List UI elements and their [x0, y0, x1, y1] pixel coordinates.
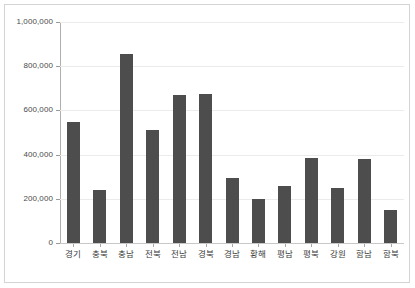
x-tick-label: 경기 — [60, 250, 86, 259]
x-tick-mark — [258, 244, 259, 247]
bar — [358, 159, 371, 243]
x-tick-mark — [391, 244, 392, 247]
bar — [146, 130, 159, 243]
x-tick-mark — [100, 244, 101, 247]
y-tick-label: 400,000 — [23, 151, 53, 159]
x-tick-mark — [311, 244, 312, 247]
x-tick-mark — [73, 244, 74, 247]
x-tick-label: 전북 — [139, 250, 165, 259]
y-axis-tick-labels: 0200,000400,000600,000800,0001,000,000 — [0, 0, 53, 288]
gridline-400000 — [60, 155, 404, 156]
y-tick-label: 1,000,000 — [17, 18, 54, 26]
x-tick-mark — [232, 244, 233, 247]
x-tick-mark — [285, 244, 286, 247]
x-tick-label: 황해 — [245, 250, 271, 259]
y-tick-label: 0 — [48, 239, 53, 247]
gridline-800000 — [60, 66, 404, 67]
bar — [173, 95, 186, 243]
x-tick-mark — [153, 244, 154, 247]
y-tick-label: 200,000 — [23, 195, 53, 203]
x-tick-mark — [364, 244, 365, 247]
gridline-600000 — [60, 110, 404, 111]
x-tick-label: 함북 — [378, 250, 404, 259]
x-tick-label: 평남 — [272, 250, 298, 259]
x-tick-mark — [179, 244, 180, 247]
bar — [226, 178, 239, 243]
bar — [331, 188, 344, 243]
x-tick-label: 강원 — [325, 250, 351, 259]
bar — [67, 122, 80, 243]
y-tick-label: 600,000 — [23, 106, 53, 114]
bar — [199, 94, 212, 243]
x-tick-mark — [206, 244, 207, 247]
x-tick-label: 함남 — [351, 250, 377, 259]
gridline-1000000 — [60, 22, 404, 23]
bar — [305, 158, 318, 243]
x-tick-label: 평북 — [298, 250, 324, 259]
x-tick-label: 충남 — [113, 250, 139, 259]
x-tick-label: 충북 — [86, 250, 112, 259]
bar — [120, 54, 133, 243]
bar — [278, 186, 291, 243]
x-tick-label: 전남 — [166, 250, 192, 259]
bar — [93, 190, 106, 243]
y-tick-label: 800,000 — [23, 62, 53, 70]
x-tick-label: 경북 — [192, 250, 218, 259]
bar-chart-figure: 0200,000400,000600,000800,0001,000,000 경… — [0, 0, 415, 288]
x-tick-label: 경남 — [219, 250, 245, 259]
x-tick-mark — [126, 244, 127, 247]
bar — [252, 199, 265, 243]
plot-area — [60, 22, 404, 243]
x-tick-mark — [338, 244, 339, 247]
bar — [384, 210, 397, 243]
